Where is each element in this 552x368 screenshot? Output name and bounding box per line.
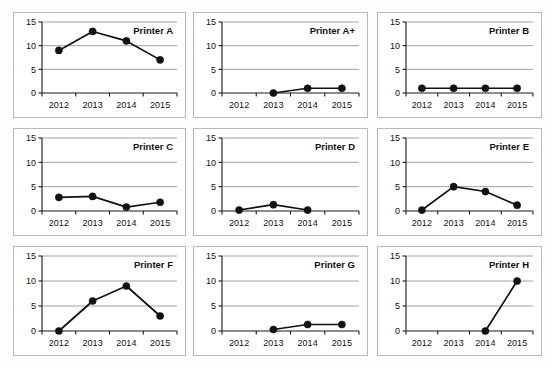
y-tick-label: 0: [395, 88, 400, 98]
chart-panel-printer-d: 0510152012201320142015Printer D: [193, 128, 368, 236]
data-point-marker: [304, 85, 311, 92]
y-tick-label: 15: [390, 251, 400, 261]
x-tick-label: 2015: [507, 100, 527, 110]
x-tick-label: 2012: [49, 100, 69, 110]
panel-title: Printer B: [489, 25, 529, 36]
series-line: [59, 286, 160, 331]
data-point-marker: [482, 188, 489, 195]
x-tick-label: 2012: [412, 218, 432, 228]
x-tick-label: 2013: [263, 100, 283, 110]
data-point-marker: [338, 85, 345, 92]
data-point-marker: [482, 85, 489, 92]
data-point-marker: [123, 37, 130, 44]
x-tick-label: 2014: [475, 100, 495, 110]
chart-canvas: 0510152012201320142015Printer B: [378, 13, 541, 117]
x-tick-label: 2014: [298, 218, 318, 228]
series-line: [422, 187, 517, 210]
x-tick-label: 2015: [150, 218, 170, 228]
y-tick-label: 5: [395, 65, 400, 75]
data-point-marker: [123, 282, 130, 289]
x-tick-label: 2012: [229, 218, 249, 228]
y-tick-label: 10: [26, 276, 36, 286]
chart-panel-printer-a-plus: 0510152012201320142015Printer A+: [193, 12, 368, 118]
y-tick-label: 5: [31, 301, 36, 311]
x-tick-label: 2015: [150, 338, 170, 348]
data-point-marker: [450, 85, 457, 92]
panel-title: Printer F: [134, 259, 173, 270]
x-tick-label: 2013: [444, 100, 464, 110]
y-tick-label: 10: [390, 41, 400, 51]
chart-canvas: 0510152012201320142015Printer C: [14, 129, 185, 235]
y-tick-label: 0: [395, 326, 400, 336]
y-tick-label: 15: [206, 17, 216, 27]
data-point-marker: [418, 206, 425, 213]
y-tick-label: 10: [206, 41, 216, 51]
x-tick-label: 2013: [444, 218, 464, 228]
data-point-marker: [304, 321, 311, 328]
x-tick-label: 2012: [229, 338, 249, 348]
data-point-marker: [157, 199, 164, 206]
panel-title: Printer E: [489, 141, 529, 152]
data-point-marker: [270, 326, 277, 333]
data-point-marker: [157, 312, 164, 319]
data-point-marker: [418, 85, 425, 92]
y-tick-label: 10: [390, 158, 400, 168]
y-tick-label: 5: [31, 65, 36, 75]
data-point-marker: [123, 204, 130, 211]
panel-title: Printer D: [315, 141, 355, 152]
data-point-marker: [89, 193, 96, 200]
x-tick-label: 2012: [412, 100, 432, 110]
panel-title: Printer H: [489, 259, 529, 270]
small-multiples-grid: 0510152012201320142015Printer A 05101520…: [0, 0, 552, 368]
x-tick-label: 2014: [116, 100, 136, 110]
y-tick-label: 10: [206, 158, 216, 168]
x-tick-label: 2015: [332, 338, 352, 348]
series-line: [59, 196, 160, 207]
x-tick-label: 2015: [150, 100, 170, 110]
x-tick-label: 2013: [83, 338, 103, 348]
y-tick-label: 5: [211, 65, 216, 75]
chart-panel-printer-a: 0510152012201320142015Printer A: [13, 12, 186, 118]
y-tick-label: 5: [211, 301, 216, 311]
x-tick-label: 2012: [49, 218, 69, 228]
data-point-marker: [514, 202, 521, 209]
data-point-marker: [304, 206, 311, 213]
x-tick-label: 2013: [263, 338, 283, 348]
x-tick-label: 2013: [83, 218, 103, 228]
data-point-marker: [514, 85, 521, 92]
y-tick-label: 5: [211, 182, 216, 192]
x-tick-label: 2014: [298, 100, 318, 110]
data-point-marker: [338, 321, 345, 328]
x-tick-label: 2014: [475, 338, 495, 348]
y-tick-label: 15: [26, 17, 36, 27]
y-tick-label: 0: [395, 206, 400, 216]
data-point-marker: [89, 28, 96, 35]
data-point-marker: [270, 89, 277, 96]
x-tick-label: 2015: [332, 100, 352, 110]
y-tick-label: 0: [211, 326, 216, 336]
chart-canvas: 0510152012201320142015Printer A: [14, 13, 185, 117]
y-tick-label: 10: [390, 276, 400, 286]
chart-panel-printer-g: 0510152012201320142015Printer G: [193, 246, 368, 356]
chart-canvas: 0510152012201320142015Printer E: [378, 129, 541, 235]
panel-title: Printer C: [133, 141, 173, 152]
data-point-marker: [514, 277, 521, 284]
x-tick-label: 2013: [444, 338, 464, 348]
x-tick-label: 2015: [332, 218, 352, 228]
panel-title: Printer A: [133, 25, 173, 36]
chart-canvas: 0510152012201320142015Printer F: [14, 247, 185, 355]
y-tick-label: 15: [26, 251, 36, 261]
chart-panel-printer-h: 0510152012201320142015Printer H: [377, 246, 542, 356]
chart-canvas: 0510152012201320142015Printer D: [194, 129, 367, 235]
panel-title: Printer G: [314, 259, 355, 270]
y-tick-label: 15: [206, 251, 216, 261]
x-tick-label: 2013: [83, 100, 103, 110]
y-tick-label: 0: [211, 88, 216, 98]
chart-canvas: 0510152012201320142015Printer G: [194, 247, 367, 355]
chart-canvas: 0510152012201320142015Printer A+: [194, 13, 367, 117]
y-tick-label: 10: [206, 276, 216, 286]
data-point-marker: [482, 327, 489, 334]
chart-panel-printer-e: 0510152012201320142015Printer E: [377, 128, 542, 236]
chart-panel-printer-c: 0510152012201320142015Printer C: [13, 128, 186, 236]
y-tick-label: 5: [395, 182, 400, 192]
